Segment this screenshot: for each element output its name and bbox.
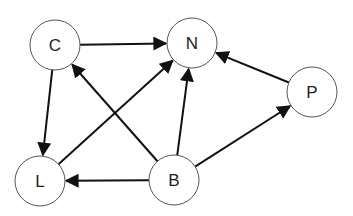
node-n: N <box>167 18 217 68</box>
node-label: N <box>186 34 198 53</box>
node-p: P <box>287 67 337 117</box>
node-label: B <box>168 171 179 190</box>
edge-c-to-l <box>43 70 52 155</box>
node-b: B <box>149 155 199 205</box>
node-label: C <box>49 36 61 55</box>
node-label: L <box>35 172 44 191</box>
edge-c-to-n <box>80 43 166 44</box>
graph-svg: CNPLB <box>0 0 353 216</box>
edge-b-to-n <box>177 69 188 155</box>
edge-b-to-l <box>66 180 149 181</box>
nodes-group: CNPLB <box>15 18 337 206</box>
node-c: C <box>30 20 80 70</box>
edge-p-to-n <box>216 53 289 83</box>
node-l: L <box>15 156 65 206</box>
edge-b-to-p <box>195 106 290 167</box>
graph-canvas: CNPLB <box>0 0 353 216</box>
node-label: P <box>306 83 317 102</box>
edge-b-to-c <box>72 65 157 162</box>
